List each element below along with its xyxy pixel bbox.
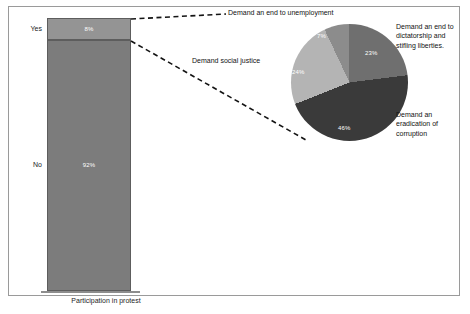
pie-disc [291, 24, 408, 141]
category-label-yes: Yes [8, 25, 42, 32]
bar-segment-yes-value: 8% [84, 26, 93, 32]
pie-label-unemployment: Demand an end to unemployment [228, 8, 333, 17]
chart-figure: 8% 92% Yes No Participation in protest 2… [0, 0, 470, 314]
category-label-no: No [8, 161, 42, 168]
bar-segment-yes[interactable]: 8% [47, 18, 131, 40]
pie-value-dictatorship: 23% [365, 50, 378, 56]
bar-segment-no[interactable]: 92% [47, 40, 131, 291]
stacked-bar: 8% 92% [47, 18, 131, 291]
x-axis-title: Participation in protest [41, 297, 171, 304]
bar-segment-no-value: 92% [83, 162, 96, 168]
pie-chart: 23% 46% 24% 7% [291, 24, 408, 141]
pie-label-dictatorship: Demand an end to dictatorship and stifli… [396, 22, 462, 50]
pie-label-corruption: Demand an eradication of corruption [396, 110, 462, 138]
x-axis-line [41, 291, 140, 293]
pie-value-unemployment: 7% [317, 33, 326, 39]
pie-label-justice: Demand social justice [192, 56, 260, 65]
pie-value-corruption: 46% [338, 125, 351, 131]
pie-value-justice: 24% [292, 69, 305, 75]
